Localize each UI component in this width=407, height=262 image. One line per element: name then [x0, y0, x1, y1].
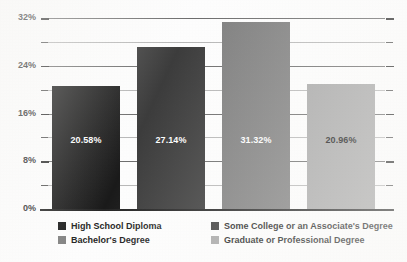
legend-swatch-icon — [58, 222, 66, 230]
y-axis-tick-label: 24% — [0, 60, 36, 70]
axis-tick — [41, 114, 49, 116]
legend-swatch-icon — [211, 222, 219, 230]
axis-tick — [41, 90, 48, 91]
chart-title: Education — [0, 0, 407, 2]
bar: 20.58% — [52, 86, 120, 209]
legend-item[interactable]: Bachelor's Degree — [58, 233, 205, 247]
axis-tick — [386, 161, 394, 163]
legend-item[interactable]: Graduate or Professional Degree — [211, 233, 398, 247]
legend-item[interactable]: High School Diploma — [58, 219, 205, 233]
axis-tick — [41, 66, 49, 68]
legend-item[interactable]: Some College or an Associate's Degree — [211, 219, 398, 233]
y-axis-tick-label: 8% — [0, 155, 36, 165]
bar: 20.96% — [307, 84, 375, 209]
bar-value-label: 27.14% — [137, 135, 205, 145]
axis-tick — [386, 137, 393, 138]
x-axis-line — [40, 209, 393, 211]
axis-tick — [386, 66, 394, 68]
axis-tick — [386, 42, 393, 43]
y-axis-tick-label: 32% — [0, 12, 36, 22]
legend-swatch-icon — [211, 236, 219, 244]
axis-tick — [41, 137, 48, 138]
legend-item-label: Graduate or Professional Degree — [224, 236, 365, 245]
legend-item-label: High School Diploma — [71, 222, 162, 231]
y-axis-tick-label: 0% — [0, 203, 36, 213]
legend-swatch-icon — [58, 236, 66, 244]
axis-tick — [41, 185, 48, 186]
bar-value-label: 20.58% — [52, 135, 120, 145]
bar-chart: Education 20.58%27.14%31.32%20.96% High … — [0, 0, 407, 262]
gridline-major — [48, 18, 385, 19]
gridline-major — [48, 66, 385, 67]
legend-item-label: Bachelor's Degree — [71, 236, 150, 245]
bar: 27.14% — [137, 47, 205, 209]
axis-tick — [41, 42, 48, 43]
y-axis-tick-label: 16% — [0, 108, 36, 118]
bar-value-label: 20.96% — [307, 135, 375, 145]
axis-tick — [386, 185, 393, 186]
axis-tick — [386, 18, 394, 20]
axis-tick — [41, 161, 49, 163]
bar: 31.32% — [222, 22, 290, 209]
axis-tick — [386, 114, 394, 116]
chart-legend: High School DiplomaSome College or an As… — [58, 219, 398, 247]
bar-value-label: 31.32% — [222, 135, 290, 145]
plot-area: 20.58%27.14%31.32%20.96% — [48, 18, 385, 209]
legend-item-label: Some College or an Associate's Degree — [224, 222, 393, 231]
gridline-minor — [48, 42, 385, 43]
axis-tick — [41, 18, 49, 20]
axis-tick — [386, 90, 393, 91]
